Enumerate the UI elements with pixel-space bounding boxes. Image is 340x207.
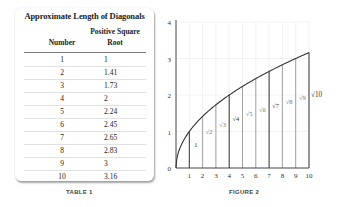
x-tick-label: 2 (201, 172, 205, 180)
x-tick-label: 3 (214, 172, 218, 180)
y-tick-labels: 01234 (168, 19, 172, 173)
segment-label: √7 (272, 102, 280, 109)
y-tick-label: 4 (168, 19, 172, 27)
x-tick-label: 1 (188, 172, 192, 180)
segment-label: √4 (232, 115, 240, 122)
segment-label: √10 (311, 91, 323, 99)
y-tick-label: 1 (168, 129, 172, 137)
segment-label: √5 (246, 110, 253, 117)
y-tick-label: 3 (168, 56, 172, 64)
segment-label: √2 (206, 128, 213, 135)
x-tick-label: 6 (254, 172, 258, 180)
y-tick-label: 0 (168, 165, 172, 173)
segment-label: √8 (286, 98, 293, 105)
segment-labels: 1√2√3√4√5√6√7√8√9√10 (194, 91, 322, 149)
segment-label: 1 (194, 141, 197, 148)
x-tick-label: 10 (306, 172, 314, 180)
x-tick-label: 7 (267, 172, 271, 180)
x-tick-label: 8 (281, 172, 285, 180)
segment-label: √3 (219, 121, 226, 128)
x-tick-label: 4 (227, 172, 231, 180)
square-root-figure: 12345678910 01234 1√2√3√4√5√6√7√8√9√10 (0, 0, 340, 207)
x-tick-label: 5 (241, 172, 245, 180)
x-tick-labels: 12345678910 (188, 172, 313, 180)
figure-caption: FIGURE 2 (229, 189, 259, 195)
y-tick-label: 2 (168, 92, 172, 100)
segment-label: √9 (299, 94, 306, 101)
segment-label: √6 (259, 106, 266, 113)
x-tick-label: 9 (294, 172, 298, 180)
